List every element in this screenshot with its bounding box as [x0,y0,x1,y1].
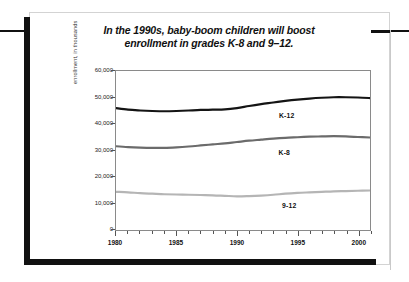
x-axis-tick-label: 1985 [169,239,183,246]
x-axis-minor-tick-mark [371,231,372,234]
x-axis-minor-tick-mark [127,231,128,234]
y-axis-tick-label: 30,000 [79,147,113,153]
x-axis-major-tick-mark [298,231,299,236]
x-axis-minor-tick-mark [334,231,335,234]
y-axis-tick-label: 10,000 [79,200,113,206]
chart-title: In the 1990s, baby-boom children will bo… [43,24,375,50]
chart-title-line-2: enrollment in grades K-8 and 9–12. [43,37,375,50]
x-axis-minor-tick-mark [286,231,287,234]
x-axis-minor-tick-mark [347,231,348,234]
y-axis-tick-label: 20,000 [79,173,113,179]
x-axis-tick-label: 1980 [108,239,122,246]
y-axis-tick-label: 0 [79,226,113,232]
x-axis-tick-label: 1990 [230,239,244,246]
y-axis-tick-label: 60,000 [79,67,113,73]
x-axis-minor-tick-mark [310,231,311,234]
chart-title-line-1: In the 1990s, baby-boom children will bo… [43,24,375,37]
series-label-9-12: 9-12 [282,202,296,209]
chart-line-k-8 [116,136,370,148]
x-axis-major-tick-mark [115,231,116,236]
x-axis-minor-tick-mark [225,231,226,234]
y-axis-tick-label: 50,000 [79,94,113,100]
x-axis-minor-tick-mark [188,231,189,234]
x-axis-tick-label: 2000 [352,239,366,246]
x-axis-tick-labels: 19801985199019952000 [115,231,371,257]
series-label-k-8: K-8 [279,149,291,156]
x-axis-minor-tick-mark [213,231,214,234]
x-axis-minor-tick-mark [164,231,165,234]
chart-series-canvas [116,71,370,230]
page-content: In the 1990s, baby-boom children will bo… [29,12,389,265]
series-label-k-12: K-12 [279,112,295,119]
x-axis-minor-tick-mark [152,231,153,234]
x-axis-minor-tick-mark [273,231,274,234]
page-sheet-outline-right-edge [390,30,391,270]
x-axis-major-tick-mark [237,231,238,236]
x-axis-tick-label: 1995 [291,239,305,246]
chart-line-9-12 [116,191,370,197]
chart-line-k-12 [116,97,370,111]
x-axis-minor-tick-mark [200,231,201,234]
y-axis-tick-label: 40,000 [79,120,113,126]
x-axis-minor-tick-mark [322,231,323,234]
x-axis-major-tick-mark [359,231,360,236]
x-axis-minor-tick-mark [139,231,140,234]
x-axis-major-tick-mark [176,231,177,236]
line-chart: enrollment, in thousands 010,00020,00030… [73,70,371,257]
x-axis-minor-tick-mark [261,231,262,234]
y-axis-tick-labels: 010,00020,00030,00040,00050,00060,000 [73,70,113,257]
chart-plot-area [115,70,371,231]
x-axis-minor-tick-mark [249,231,250,234]
